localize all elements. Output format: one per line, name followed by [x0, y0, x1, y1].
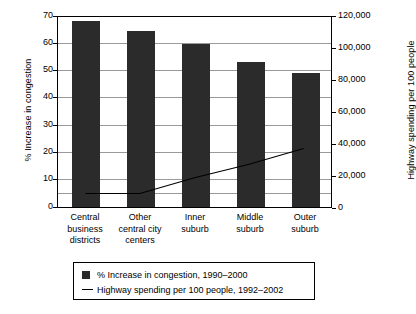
y-right-tick-60000: 60,000 — [338, 107, 394, 116]
x-category-label-4: Outer suburb — [267, 212, 343, 235]
y-left-tick-40: 40 — [13, 92, 53, 101]
legend-item-congestion: % Increase in congestion, 1990–2000 — [82, 267, 314, 282]
y-left-tick-60: 60 — [13, 38, 53, 47]
y-right-tick-100000: 100,000 — [338, 43, 394, 52]
spending-polyline — [85, 148, 303, 193]
chart-legend: % Increase in congestion, 1990–2000 High… — [73, 262, 315, 300]
y-right-tickmark — [332, 176, 336, 177]
y-right-tickmark — [332, 144, 336, 145]
y-right-tick-0: 0 — [338, 203, 394, 212]
y-right-tick-40000: 40,000 — [338, 139, 394, 148]
legend-line-swatch-icon — [82, 289, 93, 290]
y-left-tick-10: 10 — [13, 174, 53, 183]
y-left-tick-50: 50 — [13, 65, 53, 74]
legend-label-congestion: % Increase in congestion, 1990–2000 — [97, 270, 248, 280]
plot-area — [57, 16, 332, 208]
y-right-tickmark — [332, 80, 336, 81]
y-right-tick-80000: 80,000 — [338, 75, 394, 84]
legend-label-spending: Highway spending per 100 people, 1992–20… — [97, 285, 283, 295]
y-right-tickmark — [332, 48, 336, 49]
chart-figure: % Increase in congestion Highway spendin… — [0, 0, 416, 314]
y-left-tick-30: 30 — [13, 120, 53, 129]
y-axis-right-title: Highway spending per 100 people — [406, 15, 416, 205]
y-left-tick-20: 20 — [13, 147, 53, 156]
highway-spending-line-series — [58, 17, 331, 207]
y-left-tick-0: 0 — [13, 202, 53, 211]
y-right-tickmark — [332, 208, 336, 209]
y-right-tickmark — [332, 16, 336, 17]
y-left-tick-70: 70 — [13, 11, 53, 20]
y-axis-left-title: % Increase in congestion — [23, 30, 33, 190]
legend-square-swatch-icon — [82, 271, 90, 279]
legend-item-spending: Highway spending per 100 people, 1992–20… — [82, 282, 314, 297]
y-right-tick-20000: 20,000 — [338, 171, 394, 180]
y-right-tick-120000: 120,000 — [338, 11, 394, 20]
y-right-tickmark — [332, 112, 336, 113]
